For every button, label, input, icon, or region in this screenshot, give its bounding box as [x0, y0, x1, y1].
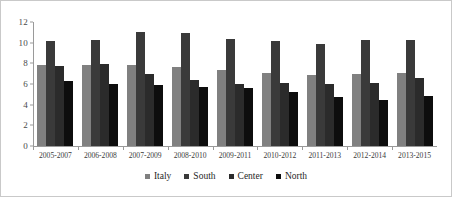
bar-group	[347, 22, 392, 146]
bar-group	[168, 22, 213, 146]
x-axis-tick-mark	[347, 146, 348, 150]
x-axis-tick-mark	[33, 146, 34, 150]
bar-italy[interactable]	[262, 73, 271, 146]
x-axis-label: 2010-2012	[257, 151, 302, 160]
legend-swatch-icon	[184, 174, 189, 179]
x-axis-label: 2012-2014	[347, 151, 392, 160]
x-axis-label: 2007-2009	[123, 151, 168, 160]
bar-south[interactable]	[361, 40, 370, 146]
legend-label: Italy	[154, 171, 171, 181]
bar-italy[interactable]	[217, 70, 226, 146]
x-axis-label: 2013-2015	[392, 151, 437, 160]
x-axis-label: 2009-2011	[213, 151, 258, 160]
x-axis-line	[33, 146, 437, 147]
bar-group	[392, 22, 437, 146]
bar-group	[78, 22, 123, 146]
x-axis-tick-mark	[213, 146, 214, 150]
bar-south[interactable]	[316, 44, 325, 146]
bar-south[interactable]	[91, 40, 100, 146]
legend-swatch-icon	[276, 174, 281, 179]
chart-figure: 121086420 2005-20072006-20082007-2009200…	[0, 0, 452, 197]
chart-legend: ItalySouthCenterNorth	[1, 171, 451, 181]
bar-group	[123, 22, 168, 146]
legend-label: Center	[238, 171, 263, 181]
bar-south[interactable]	[136, 32, 145, 146]
plot-area: 121086420	[33, 22, 437, 146]
bar-groups	[33, 22, 437, 146]
bar-center[interactable]	[100, 64, 109, 146]
bar-north[interactable]	[379, 100, 388, 147]
bar-center[interactable]	[235, 84, 244, 146]
bar-italy[interactable]	[307, 75, 316, 146]
legend-label: North	[285, 171, 307, 181]
bar-south[interactable]	[271, 41, 280, 146]
x-axis-tick-mark	[392, 146, 393, 150]
bar-north[interactable]	[424, 96, 433, 146]
bar-italy[interactable]	[37, 65, 46, 146]
bar-north[interactable]	[154, 85, 163, 146]
bar-group	[33, 22, 78, 146]
bar-italy[interactable]	[127, 65, 136, 146]
bar-north[interactable]	[109, 84, 118, 146]
bar-center[interactable]	[325, 84, 334, 146]
bar-north[interactable]	[334, 97, 343, 146]
legend-swatch-icon	[145, 174, 150, 179]
bar-north[interactable]	[64, 81, 73, 146]
x-axis-label: 2011-2013	[302, 151, 347, 160]
bar-group	[257, 22, 302, 146]
x-axis-tick-mark	[302, 146, 303, 150]
x-axis-tick-mark	[78, 146, 79, 150]
legend-item-south[interactable]: South	[184, 171, 215, 181]
bar-group	[302, 22, 347, 146]
x-axis-tick-mark	[168, 146, 169, 150]
bar-center[interactable]	[370, 83, 379, 146]
legend-item-center[interactable]: Center	[229, 171, 263, 181]
bar-italy[interactable]	[352, 74, 361, 146]
legend-item-north[interactable]: North	[276, 171, 307, 181]
bar-center[interactable]	[415, 78, 424, 146]
bar-north[interactable]	[289, 92, 298, 146]
bar-center[interactable]	[280, 83, 289, 146]
legend-swatch-icon	[229, 174, 234, 179]
x-axis-labels: 2005-20072006-20082007-20092008-20102009…	[33, 151, 437, 160]
bar-group	[213, 22, 258, 146]
legend-item-italy[interactable]: Italy	[145, 171, 171, 181]
bar-italy[interactable]	[172, 67, 181, 146]
x-axis-label: 2006-2008	[78, 151, 123, 160]
bar-south[interactable]	[226, 39, 235, 146]
bar-center[interactable]	[55, 66, 64, 146]
bar-south[interactable]	[181, 33, 190, 146]
x-axis-label: 2005-2007	[33, 151, 78, 160]
legend-label: South	[193, 171, 215, 181]
bar-south[interactable]	[46, 41, 55, 146]
x-axis-label: 2008-2010	[168, 151, 213, 160]
x-axis-tick-mark	[257, 146, 258, 150]
bar-south[interactable]	[406, 40, 415, 146]
bar-center[interactable]	[190, 80, 199, 146]
bar-italy[interactable]	[397, 73, 406, 146]
bar-north[interactable]	[244, 88, 253, 146]
bar-north[interactable]	[199, 87, 208, 146]
bar-center[interactable]	[145, 74, 154, 146]
bar-italy[interactable]	[82, 65, 91, 146]
x-axis-tick-mark	[123, 146, 124, 150]
